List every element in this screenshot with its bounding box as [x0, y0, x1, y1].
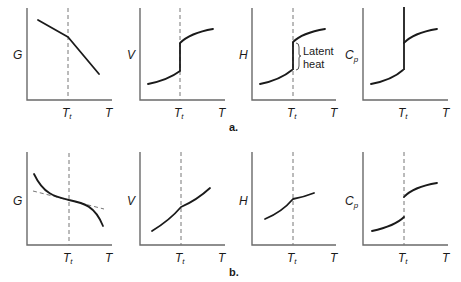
cp-curve-low: [372, 217, 404, 231]
axes: [363, 8, 448, 100]
tt-label: Tt: [174, 106, 184, 121]
panel-b-volume: V Tt T: [127, 152, 227, 266]
cp-curve-low: [371, 70, 403, 84]
x-axis-label: T: [105, 251, 114, 265]
y-axis-label: Cp: [345, 194, 359, 210]
cp-curve-high: [404, 29, 437, 43]
part-label-b: b.: [229, 266, 239, 278]
tt-label: Tt: [63, 251, 73, 266]
axes: [140, 8, 225, 100]
tt-label: Tt: [398, 251, 408, 266]
latent-heat-label-line2: heat: [303, 58, 324, 70]
x-axis-label: T: [442, 251, 451, 265]
tt-label: Tt: [398, 106, 408, 121]
part-label-a: a.: [229, 121, 238, 133]
tt-label: Tt: [287, 106, 297, 121]
panel-a-gibbs: G Tt T: [13, 8, 114, 121]
x-axis-label: T: [218, 251, 227, 265]
panel-a-enthalpy: Latent heat H Tt T: [239, 8, 339, 121]
y-axis-label: V: [127, 48, 136, 62]
tt-label: Tt: [287, 251, 297, 266]
panel-b-gibbs: G Tt T: [13, 152, 114, 266]
y-axis-label: H: [239, 194, 248, 208]
x-axis-label: T: [330, 106, 339, 120]
y-axis-label: H: [239, 48, 248, 62]
panel-b-enthalpy: H Tt T: [239, 152, 339, 266]
y-axis-label: G: [13, 48, 22, 62]
panel-b-heat-capacity: Cp Tt T: [345, 152, 451, 266]
tt-label: Tt: [62, 106, 72, 121]
y-axis-label: G: [13, 194, 22, 208]
x-axis-label: T: [218, 106, 227, 120]
y-axis-label: Cp: [345, 48, 359, 64]
x-axis-label: T: [330, 251, 339, 265]
phase-transition-diagram: G Tt T V Tt T Latent heat H Tt T Cp Tt T: [0, 0, 461, 282]
latent-heat-brace: [296, 43, 301, 70]
x-axis-label: T: [105, 106, 114, 120]
enthalpy-curve-low: [260, 70, 292, 84]
cp-curve-high: [404, 183, 437, 197]
x-axis-label: T: [442, 106, 451, 120]
volume-curve-low: [148, 71, 180, 84]
panel-a-volume: V Tt T: [127, 8, 227, 121]
panel-a-heat-capacity: Cp Tt T: [345, 7, 451, 121]
latent-heat-label-line1: Latent: [303, 45, 334, 57]
enthalpy-curve-high: [293, 29, 325, 42]
y-axis-label: V: [127, 194, 136, 208]
enthalpy-curve: [265, 193, 314, 219]
tt-label: Tt: [175, 251, 185, 266]
volume-curve-high: [180, 29, 213, 43]
